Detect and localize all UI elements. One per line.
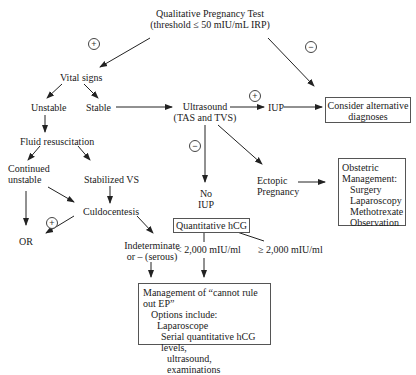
no-iup-line1: No	[194, 188, 218, 199]
obstetric-option-observation: Observation	[342, 217, 402, 228]
ultrasound-node: Ultrasound (TAS and TVS)	[170, 101, 240, 123]
cannot-rule-out-title: Management of “cannot rule out EP”	[143, 287, 266, 309]
hcg-above-2000-label: ≥ 2,000 mIU/ml	[258, 244, 323, 255]
positive-sign-icon: +	[249, 90, 261, 102]
cannot-rule-out-ep-box: Management of “cannot rule out EP” Optio…	[138, 283, 271, 345]
ultrasound-line1: Ultrasound	[170, 101, 240, 112]
hcg-below-2000-label: < 2,000 mIU/ml	[176, 244, 241, 255]
quantitative-hcg-box: Quantitative hCG	[173, 218, 250, 233]
continued-unstable-line1: Continued	[8, 163, 50, 174]
obstetric-management-box: Obstetric Management: Surgery Laparoscop…	[338, 158, 406, 226]
consider-alternative-diagnoses-box: Consider alternative diagnoses	[325, 97, 411, 123]
continued-unstable-node: Continued unstable	[8, 163, 50, 185]
pregnancy-test-title: Qualitative Pregnancy Test	[150, 8, 270, 19]
ectopic-pregnancy-node: Ectopic Pregnancy	[257, 175, 299, 197]
consider-line2: diagnoses	[326, 111, 410, 122]
stabilized-vs-node: Stabilized VS	[84, 174, 139, 185]
positive-sign-icon: +	[88, 38, 100, 50]
iup-node: IUP	[268, 102, 284, 113]
ectopic-line1: Ectopic	[257, 175, 299, 186]
obstetric-title1: Obstetric	[342, 162, 402, 173]
stable-node: Stable	[86, 102, 111, 113]
ultrasound-line2: (TAS and TVS)	[170, 112, 240, 123]
option-serial-hcg: Serial quantitative hCG levels,	[143, 331, 266, 353]
options-include-label: Options include:	[143, 309, 266, 320]
fluid-resuscitation-node: Fluid resuscitation	[20, 136, 94, 147]
continued-unstable-line2: unstable	[8, 174, 50, 185]
unstable-node: Unstable	[31, 102, 67, 113]
obstetric-title2: Management:	[342, 173, 402, 184]
ectopic-line2: Pregnancy	[257, 186, 299, 197]
consider-line1: Consider alternative	[326, 100, 410, 111]
negative-sign-icon: −	[189, 140, 201, 152]
qualitative-pregnancy-test-node: Qualitative Pregnancy Test (threshold ≤ …	[150, 8, 270, 30]
option-laparoscope: Laparoscope	[143, 320, 266, 331]
obstetric-option-methotrexate: Methotrexate	[342, 206, 402, 217]
negative-sign-icon: −	[305, 41, 317, 53]
or-node: OR	[19, 236, 33, 247]
obstetric-option-laparoscopy: Laparoscopy	[342, 195, 402, 206]
no-iup-line2: IUP	[194, 199, 218, 210]
pregnancy-test-threshold: (threshold ≤ 50 mIU/mL IRP)	[150, 19, 270, 30]
vital-signs-node: Vital signs	[60, 72, 102, 83]
positive-sign-icon: +	[46, 217, 58, 229]
culdocentesis-node: Culdocentesis	[83, 206, 139, 217]
option-ultrasound-exams: ultrasound, examinations	[143, 353, 266, 375]
obstetric-option-surgery: Surgery	[342, 184, 402, 195]
no-iup-node: No IUP	[194, 188, 218, 210]
